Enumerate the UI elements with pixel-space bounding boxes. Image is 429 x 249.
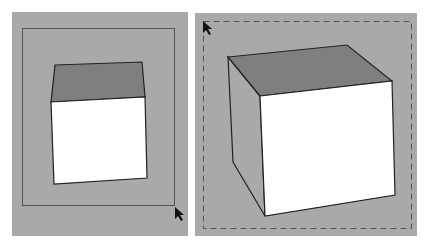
cube-front-face[interactable] [51,97,147,184]
right-viewport[interactable] [195,13,417,236]
comparison-figure [0,0,429,249]
cube-top-face[interactable] [51,62,145,102]
left-viewport[interactable] [12,12,188,236]
cube-front-face[interactable] [260,81,395,216]
